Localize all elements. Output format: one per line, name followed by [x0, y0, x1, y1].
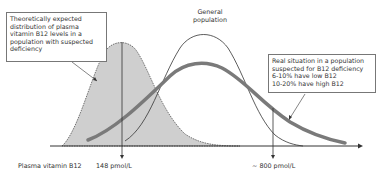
- general-population-label: General population: [190, 8, 230, 24]
- callout-line: Theoretically expected: [10, 15, 103, 23]
- callout-line: vitamin B12 levels in a: [10, 30, 103, 38]
- high-threshold-label: ~ 800 pmol/L: [252, 162, 295, 170]
- low-threshold-label: 148 pmol/L: [96, 162, 132, 170]
- callout-line: population with suspected: [10, 38, 103, 46]
- callout-line: 6-10% have low B12: [272, 72, 372, 80]
- callout-line: distribution of plasma: [10, 23, 103, 31]
- callout-line: Real situation in a population: [272, 57, 372, 65]
- high-threshold-arrow: [271, 155, 275, 159]
- left-callout-pointer: [72, 62, 97, 81]
- x-axis-arrow: [358, 144, 363, 149]
- label-line: General: [190, 8, 230, 16]
- low-threshold-arrow: [120, 155, 124, 159]
- real-situation-callout: Real situation in a population suspected…: [268, 54, 376, 93]
- callout-line: suspected for B12 deficiency: [272, 65, 372, 73]
- label-line: population: [190, 16, 230, 24]
- axis-label: Plasma vitamin B12: [18, 162, 82, 170]
- callout-line: deficiency: [10, 45, 103, 53]
- right-callout-pointer: [290, 94, 305, 118]
- callout-line: 10-20% have high B12: [272, 80, 372, 88]
- theoretical-distribution-callout: Theoretically expected distribution of p…: [6, 12, 107, 62]
